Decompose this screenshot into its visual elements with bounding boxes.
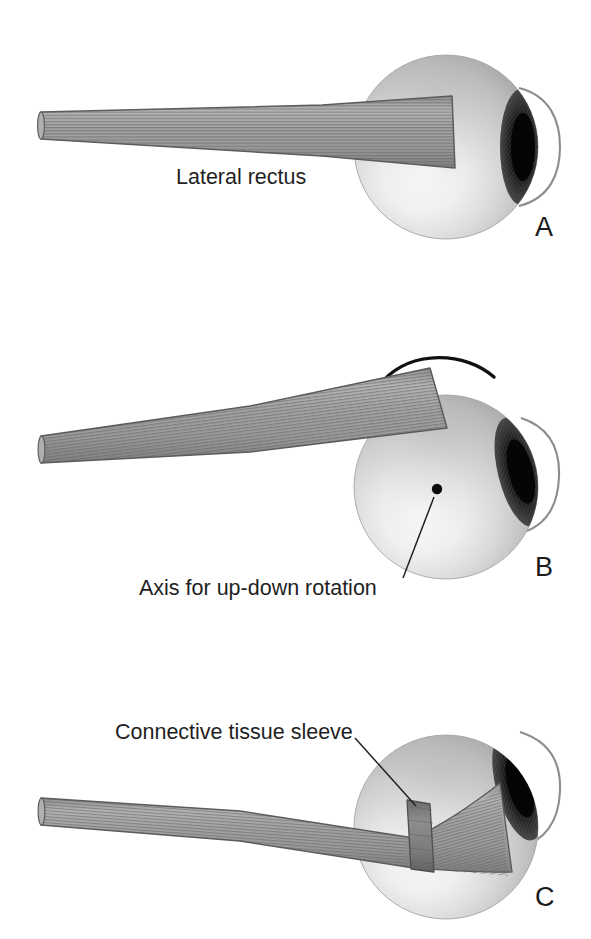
panel-b-artwork bbox=[20, 350, 559, 579]
panel-letter-c: C bbox=[535, 884, 555, 911]
panel-c-artwork bbox=[20, 726, 560, 919]
muscle-origin-end-b bbox=[38, 436, 45, 463]
muscle-origin-end-c bbox=[38, 798, 45, 825]
label-connective-tissue-sleeve: Connective tissue sleeve bbox=[115, 722, 353, 744]
label-axis-for-up-down-rotation: Axis for up-down rotation bbox=[139, 578, 377, 600]
muscle-origin-end-a bbox=[38, 112, 45, 139]
axis-dot-b bbox=[432, 484, 442, 494]
anatomical-figure: Lateral rectus Axis for up-down rotation… bbox=[0, 0, 591, 939]
figure-artwork bbox=[0, 0, 591, 939]
label-lateral-rectus: Lateral rectus bbox=[176, 167, 306, 189]
panel-letter-a: A bbox=[535, 214, 553, 241]
connective-tissue-sleeve-c bbox=[407, 800, 434, 872]
panel-a-artwork bbox=[30, 55, 560, 239]
panel-letter-b: B bbox=[535, 554, 553, 581]
